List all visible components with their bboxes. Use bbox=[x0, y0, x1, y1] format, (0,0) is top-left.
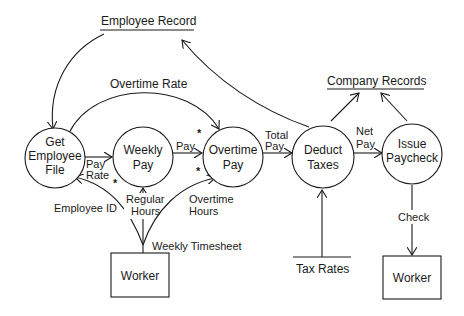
process-circle bbox=[292, 126, 354, 188]
pay-label: Pay bbox=[176, 140, 195, 152]
star-marker-pay-rate: * bbox=[113, 177, 118, 189]
process-circle bbox=[113, 127, 173, 187]
tax-rates-label: Tax Rates bbox=[296, 262, 349, 276]
process-label-line2: Pay bbox=[223, 158, 244, 172]
star-marker-overtime-top: * bbox=[197, 127, 202, 139]
employee-record-label: Employee Record bbox=[101, 14, 196, 28]
process-label-line3: File bbox=[45, 163, 65, 177]
data-flow-diagram: Employee Record Company Records Tax Rate… bbox=[0, 0, 464, 316]
process-label-line2: Employee bbox=[28, 149, 82, 163]
flow-deduct-to-company-records bbox=[331, 93, 359, 121]
employee-id-label: Employee ID bbox=[54, 202, 117, 214]
overtime-rate-label: Overtime Rate bbox=[110, 77, 188, 91]
process-deduct-taxes: Deduct Taxes bbox=[292, 126, 354, 188]
flow-deduct-taxes-to-employee-record bbox=[182, 40, 309, 127]
net-pay-label-1: Net bbox=[356, 125, 373, 137]
process-circle bbox=[203, 127, 263, 187]
process-label-line1: Issue bbox=[398, 137, 427, 151]
process-label-line2: Paycheck bbox=[386, 151, 439, 165]
pay-rate-label-2: Rate bbox=[86, 169, 109, 181]
star-marker-overtime-bottom: * bbox=[196, 165, 201, 177]
process-label-line2: Pay bbox=[133, 158, 154, 172]
company-records-label: Company Records bbox=[327, 74, 426, 88]
process-label-line1: Get bbox=[45, 135, 65, 149]
regular-hours-label-1: Regular bbox=[126, 193, 165, 205]
total-pay-label-2: Pay bbox=[265, 140, 284, 152]
external-entity-worker-sink: Worker bbox=[383, 256, 441, 299]
data-store-company-records: Company Records bbox=[327, 74, 426, 89]
process-label-line1: Weekly bbox=[123, 143, 162, 157]
net-pay-label-2: Pay bbox=[356, 138, 375, 150]
process-label-line1: Deduct bbox=[304, 143, 343, 157]
data-store-tax-rates: Tax Rates bbox=[293, 257, 351, 276]
worker-label: Worker bbox=[121, 269, 159, 283]
flow-issue-paycheck-to-company-records bbox=[381, 93, 407, 121]
flow-employee-record-to-get-employee bbox=[52, 34, 104, 129]
process-overtime-pay: Overtime Pay bbox=[203, 127, 263, 187]
process-weekly-pay: Weekly Pay bbox=[113, 127, 173, 187]
process-label-line1: Overtime bbox=[209, 143, 258, 157]
regular-hours-label-2: Hours bbox=[131, 205, 161, 217]
worker-label: Worker bbox=[393, 271, 431, 285]
data-store-employee-record: Employee Record bbox=[100, 14, 196, 30]
process-label-line2: Taxes bbox=[307, 158, 338, 172]
external-entity-worker-source: Worker bbox=[111, 253, 169, 297]
overtime-hours-label-1: Overtime bbox=[189, 193, 234, 205]
process-get-employee-file: Get Employee File bbox=[25, 128, 85, 188]
overtime-hours-label-2: Hours bbox=[189, 205, 219, 217]
weekly-timesheet-label: Weekly Timesheet bbox=[152, 240, 242, 252]
process-issue-paycheck: Issue Paycheck bbox=[382, 124, 442, 184]
check-label: Check bbox=[398, 211, 430, 223]
